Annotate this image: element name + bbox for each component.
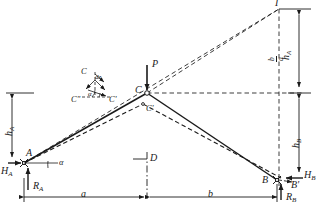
label-inset-C-double-prime: C" <box>71 95 80 104</box>
label-support-A: A <box>26 148 32 158</box>
dimension-span <box>24 178 277 202</box>
line-A-to-I <box>24 9 279 163</box>
label-load-P: P <box>152 59 158 69</box>
member-CB-deformed <box>143 104 281 178</box>
label-reaction-HA-sub: A <box>8 170 12 178</box>
structural-diagram-figure: I b a hA hA hB P C C' A HA RA α B B' HB … <box>0 0 321 216</box>
label-inset-C: C <box>81 67 87 76</box>
label-reaction-RB: RB <box>286 192 296 204</box>
hinge-B <box>275 178 278 181</box>
label-height-hA: hA <box>4 127 16 136</box>
label-center-D: D <box>150 153 157 163</box>
member-AC <box>24 93 147 163</box>
label-support-B: B <box>262 175 268 185</box>
label-inset-alpha: α <box>88 91 92 98</box>
inset-angle-arc-alpha <box>92 90 95 97</box>
member-CB <box>147 93 277 180</box>
label-height-hA-base: h <box>3 131 14 136</box>
diagram-canvas <box>0 0 321 216</box>
label-reaction-HB-sub: B <box>311 174 315 182</box>
hinge-C-prime <box>142 103 145 106</box>
label-factor-hA-right-base: h <box>280 55 291 60</box>
label-pole-I: I <box>275 0 278 8</box>
label-span-b: b <box>208 189 213 199</box>
centerline-D <box>133 152 147 199</box>
label-height-hB-base: h <box>290 143 301 148</box>
label-inset-dz: dz <box>95 74 101 81</box>
label-apex-C-prime: C' <box>146 104 154 113</box>
label-reaction-HA: HA <box>1 166 13 178</box>
label-factor-hA-right-sub: A <box>285 51 293 55</box>
label-height-hB-sub: B <box>295 139 303 143</box>
inset-arrow-2 <box>86 80 95 89</box>
label-reaction-HB: HB <box>304 170 316 182</box>
label-apex-C: C <box>135 85 142 95</box>
label-height-hB: hB <box>291 139 303 148</box>
label-height-hA-sub: A <box>8 127 16 131</box>
label-reaction-RA-sub: A <box>39 185 43 193</box>
label-angle-alpha-A: α <box>59 158 63 167</box>
label-reaction-RB-sub: B <box>292 196 296 204</box>
label-inset-C-prime: C' <box>109 95 117 104</box>
label-reaction-RA: RA <box>33 181 43 193</box>
construction-lines <box>24 9 303 186</box>
label-support-B-prime: B' <box>291 180 299 190</box>
label-factor-hA-right: hA <box>281 51 293 60</box>
hinge-C <box>145 91 150 96</box>
line-C-to-I <box>147 9 279 93</box>
member-AC-deformed <box>24 104 143 163</box>
label-span-a: a <box>81 189 86 199</box>
